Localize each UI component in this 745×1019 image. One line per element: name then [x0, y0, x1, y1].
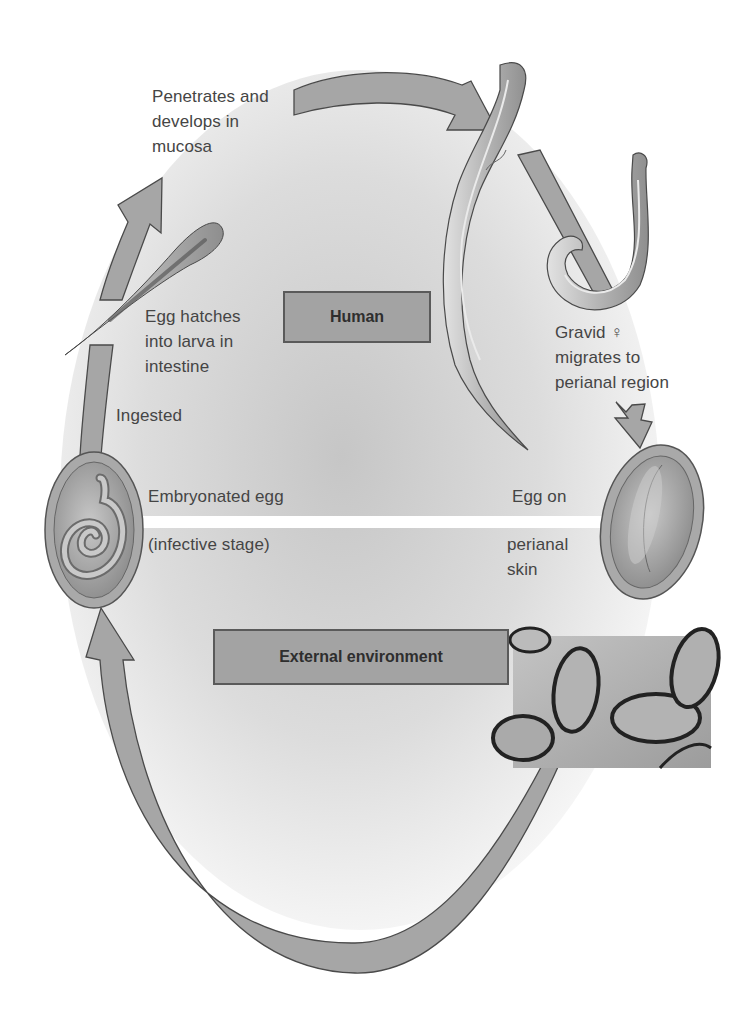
region-external-box: External environment — [213, 629, 509, 685]
label-perianal-skin: perianal skin — [507, 532, 568, 582]
label-hatches: Egg hatches into larva in intestine — [145, 304, 241, 379]
label-embryonated-egg: Embryonated egg — [148, 484, 284, 509]
label-line: intestine — [145, 354, 241, 379]
label-line: Penetrates and — [152, 84, 269, 109]
label-line: develops in — [152, 109, 269, 134]
region-human-label: Human — [330, 308, 384, 326]
region-external-label: External environment — [279, 648, 443, 666]
label-line: skin — [507, 557, 568, 582]
label-line: Egg hatches — [145, 304, 241, 329]
egg-micrograph — [493, 624, 727, 768]
label-infective-stage: (infective stage) — [148, 532, 270, 557]
label-line: perianal region — [555, 370, 669, 395]
label-line: Gravid ♀ — [555, 320, 669, 345]
boundary-band — [140, 516, 610, 528]
region-human-box: Human — [283, 291, 431, 343]
diagram-canvas — [0, 0, 745, 1019]
label-gravid: Gravid ♀ migrates to perianal region — [555, 320, 669, 395]
label-line: mucosa — [152, 134, 269, 159]
label-egg-on: Egg on — [512, 484, 566, 509]
label-line: perianal — [507, 532, 568, 557]
label-line: migrates to — [555, 345, 669, 370]
embryonated-egg-icon — [45, 452, 143, 608]
label-penetrates: Penetrates and develops in mucosa — [152, 84, 269, 159]
label-line: into larva in — [145, 329, 241, 354]
label-ingested: Ingested — [116, 403, 182, 428]
pinworm-life-cycle-diagram: Human External environment Penetrates an… — [0, 0, 745, 1019]
